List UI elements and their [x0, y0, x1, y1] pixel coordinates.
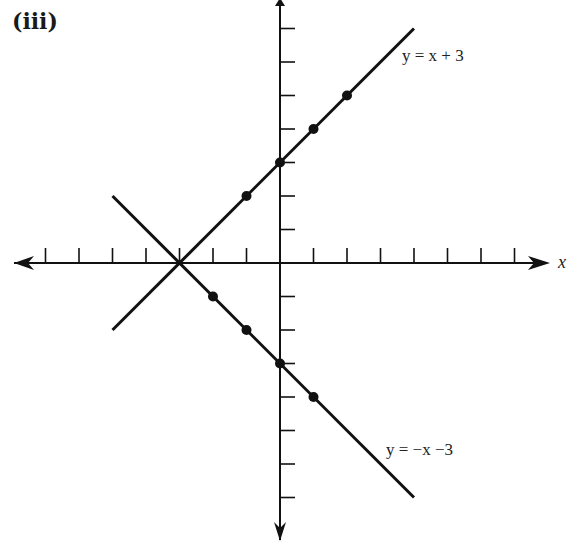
- y-axis-up-arrow-icon: [275, 0, 285, 6]
- line-label-y-equals-x-plus-3: y = x + 3: [402, 46, 464, 66]
- line-label-text: y = −x −3: [386, 440, 453, 459]
- data-point: [242, 325, 252, 335]
- panel-label: (iii): [12, 8, 58, 34]
- line-label-y-equals-neg-x-minus-3: y = −x −3: [386, 440, 453, 460]
- graph-figure: (iii) y = x + 3 y = −x −3 x: [0, 0, 577, 545]
- x-axis-label: x: [558, 252, 566, 273]
- line-y-equals-neg-x-minus-3: [113, 196, 415, 498]
- data-point: [275, 359, 285, 369]
- data-point: [242, 191, 252, 201]
- data-point: [275, 158, 285, 168]
- data-point: [208, 292, 218, 302]
- data-point: [342, 91, 352, 101]
- data-point: [309, 124, 319, 134]
- coordinate-plane: [0, 0, 577, 545]
- line-y-equals-x-plus-3: [113, 29, 415, 331]
- line-label-text: y = x + 3: [402, 46, 464, 65]
- data-point: [309, 392, 319, 402]
